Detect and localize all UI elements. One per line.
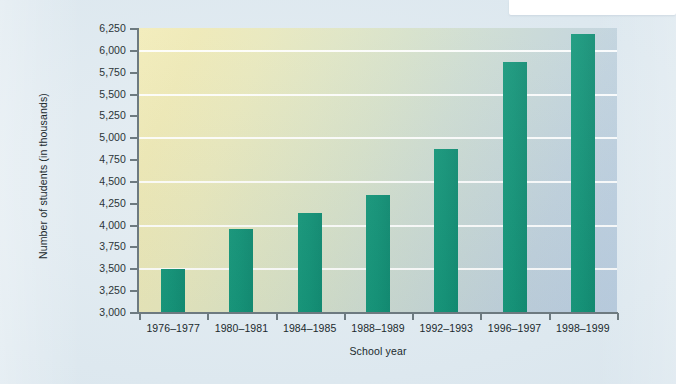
gridline xyxy=(139,50,617,52)
gridline xyxy=(139,181,617,183)
x-axis-tick xyxy=(207,313,209,320)
y-axis-tick-labels: 3,0003,2503,5003,7504,0004,2504,5004,750… xyxy=(78,0,126,384)
x-axis-tick xyxy=(617,313,619,320)
x-axis-tick xyxy=(480,313,482,320)
bar xyxy=(161,269,185,312)
y-axis-tick-label: 4,750 xyxy=(84,153,126,165)
y-axis-tick xyxy=(130,28,138,30)
y-axis-tick-label: 6,000 xyxy=(84,44,126,56)
x-axis-tick xyxy=(344,313,346,320)
y-axis-tick xyxy=(130,115,138,117)
y-axis-tick-label: 3,250 xyxy=(84,284,126,296)
y-axis-tick-label: 3,750 xyxy=(84,240,126,252)
plot-area xyxy=(139,28,617,312)
x-axis-tick xyxy=(412,313,414,320)
bar xyxy=(298,213,322,312)
y-axis-tick-label: 6,250 xyxy=(84,22,126,34)
bar-chart-figure: 3,0003,2503,5003,7504,0004,2504,5004,750… xyxy=(0,0,676,384)
x-axis-tick xyxy=(139,313,141,320)
y-axis-tick xyxy=(130,312,138,314)
y-axis-tick xyxy=(130,290,138,292)
y-axis-tick-label: 3,500 xyxy=(84,262,126,274)
y-axis-tick-label: 5,250 xyxy=(84,109,126,121)
y-axis-tick xyxy=(130,181,138,183)
gridline xyxy=(139,137,617,139)
y-axis-tick-label: 3,000 xyxy=(84,306,126,318)
y-axis-tick-label: 5,500 xyxy=(84,88,126,100)
x-axis-tick xyxy=(276,313,278,320)
x-axis-tick-label: 1998–1999 xyxy=(538,322,628,334)
y-axis-tick-label: 5,000 xyxy=(84,131,126,143)
y-axis-tick xyxy=(130,203,138,205)
y-axis-tick xyxy=(130,225,138,227)
y-axis-tick xyxy=(130,50,138,52)
gridline xyxy=(139,94,617,96)
bar xyxy=(229,229,253,312)
y-axis-tick-label: 4,500 xyxy=(84,175,126,187)
bar xyxy=(503,62,527,312)
bar xyxy=(366,195,390,312)
y-axis-tick xyxy=(130,94,138,96)
y-axis-tick xyxy=(130,246,138,248)
x-axis-tick xyxy=(549,313,551,320)
y-axis-tick xyxy=(130,137,138,139)
y-axis-tick-label: 4,250 xyxy=(84,197,126,209)
y-axis-tick xyxy=(130,268,138,270)
y-axis-tick xyxy=(130,159,138,161)
y-axis-tick xyxy=(130,72,138,74)
bar xyxy=(434,149,458,312)
bar xyxy=(571,34,595,312)
y-axis-tick-label: 4,000 xyxy=(84,219,126,231)
x-axis-title: School year xyxy=(139,345,617,357)
y-axis-tick-label: 5,750 xyxy=(84,66,126,78)
y-axis-title: Number of students (in thousands) xyxy=(37,76,49,276)
